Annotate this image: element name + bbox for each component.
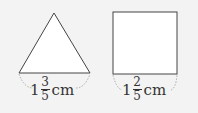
- triangle-side-label: 1 3 5 cm: [30, 77, 74, 102]
- whole-number: 1: [122, 81, 132, 99]
- denominator: 5: [41, 91, 49, 102]
- square-side-label: 1 2 5 cm: [122, 77, 166, 102]
- equilateral-triangle: [19, 13, 90, 73]
- unit: cm: [144, 81, 167, 99]
- numerator: 3: [41, 77, 49, 88]
- denominator: 5: [133, 91, 141, 102]
- square: [113, 12, 177, 74]
- fraction: 2 5: [133, 77, 142, 102]
- whole-number: 1: [30, 81, 40, 99]
- unit: cm: [52, 81, 75, 99]
- fraction: 3 5: [41, 77, 50, 102]
- numerator: 2: [133, 77, 141, 88]
